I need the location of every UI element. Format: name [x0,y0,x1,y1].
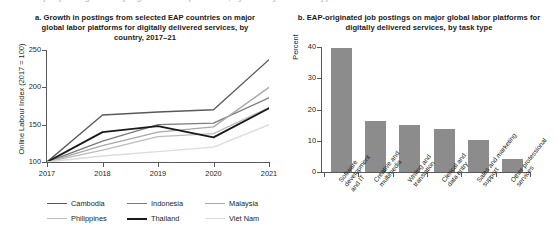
panel-a-y-tick [42,125,46,126]
panel-b-y-axis [321,47,322,173]
panel-a-x-tick-label: 2019 [147,169,169,178]
legend-swatch-philippines [47,218,67,219]
legend-row: CambodiaIndonesiaMalaysia [47,196,277,211]
legend-swatch-thailand [127,218,147,220]
legend-swatch-indonesia [127,203,147,204]
legend-label: Malaysia [229,199,258,208]
panel-a-y-axis-label: Online Labour Index (2017 = 100) [17,43,26,155]
legend-row: PhilippinesThailandViet Nam [47,211,277,226]
panel-b-plot-area: Percent 010203040 Softwaredevelopmentand… [322,47,528,172]
panel-b-y-tick [317,110,321,111]
panel-a-y-tick-label: 200 [19,82,41,91]
panel-b-bar-chart: b. EAP-originated job postings on major … [282,0,556,246]
legend-item-cambodia[interactable]: Cambodia [47,199,127,208]
panel-b-y-tick [317,172,321,173]
panel-a-legend: CambodiaIndonesiaMalaysiaPhilippinesThai… [47,196,277,226]
legend-item-viet-nam[interactable]: Viet Nam [205,214,275,223]
panel-a-plot-area: Online Labour Index (2017 = 100) 1001502… [47,50,269,162]
panel-a-y-tick [42,162,46,163]
panel-a-line-chart: a. Growth in postings from selected EAP … [0,0,282,246]
panel-b-y-tick-label: 10 [296,136,316,145]
panel-a-x-tick-label: 2017 [36,169,58,178]
panel-b-y-tick-label: 20 [296,105,316,114]
legend-label: Philippines [71,214,107,223]
legend-item-thailand[interactable]: Thailand [127,214,205,223]
line-series-philippines [47,107,269,162]
panel-a-y-tick-label: 150 [19,120,41,129]
panel-a-x-tick [47,163,48,167]
panel-b-y-tick [317,78,321,79]
panel-b-x-tick [324,173,325,177]
panel-a-y-tick [42,50,46,51]
panel-a-y-tick-label: 100 [19,157,41,166]
panel-a-x-tick [103,163,104,167]
panel-b-y-tick-label: 0 [296,167,316,176]
legend-label: Thailand [151,214,179,223]
panel-b-title: b. EAP-originated job postings on major … [282,13,556,33]
panel-a-x-tick [158,163,159,167]
legend-label: Indonesia [151,199,183,208]
legend-swatch-viet-nam [205,218,225,219]
legend-label: Cambodia [71,199,105,208]
panel-a-x-tick-label: 2021 [258,169,280,178]
legend-item-philippines[interactable]: Philippines [47,214,127,223]
legend-item-indonesia[interactable]: Indonesia [127,199,205,208]
line-series-thailand [47,108,269,162]
panel-a-title: a. Growth in postings from selected EAP … [0,13,282,44]
legend-swatch-cambodia [47,203,67,204]
panel-b-y-tick-label: 30 [296,73,316,82]
panel-b-y-tick [317,47,321,48]
panel-b-y-tick-label: 40 [296,42,316,51]
panel-a-svg [47,50,269,162]
panel-a-y-tick-label: 250 [19,45,41,54]
legend-swatch-malaysia [205,203,225,204]
legend-item-malaysia[interactable]: Malaysia [205,199,275,208]
legend-label: Viet Nam [229,214,259,223]
panel-a-x-tick-label: 2020 [203,169,225,178]
figure-container: Share of job postings on major global la… [0,0,556,246]
panel-a-x-tick-label: 2018 [92,169,114,178]
panel-a-x-tick [214,163,215,167]
panel-a-y-axis [46,50,47,163]
panel-a-x-tick [269,163,270,167]
panel-b-y-tick [317,141,321,142]
bar-0 [331,48,352,172]
panel-a-y-tick [42,87,46,88]
